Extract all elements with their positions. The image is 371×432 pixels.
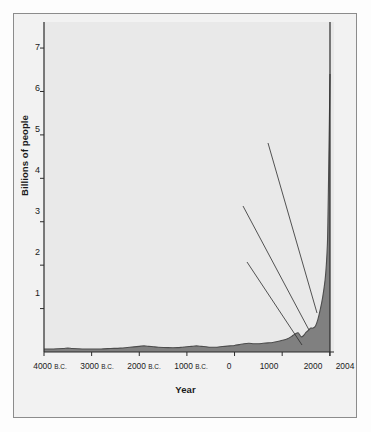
figure-canvas: Billions of people 7 6 5 4 3 2 1 4000 B.…: [0, 0, 371, 432]
population-area-chart: [0, 0, 371, 432]
plot-background: [44, 22, 334, 352]
